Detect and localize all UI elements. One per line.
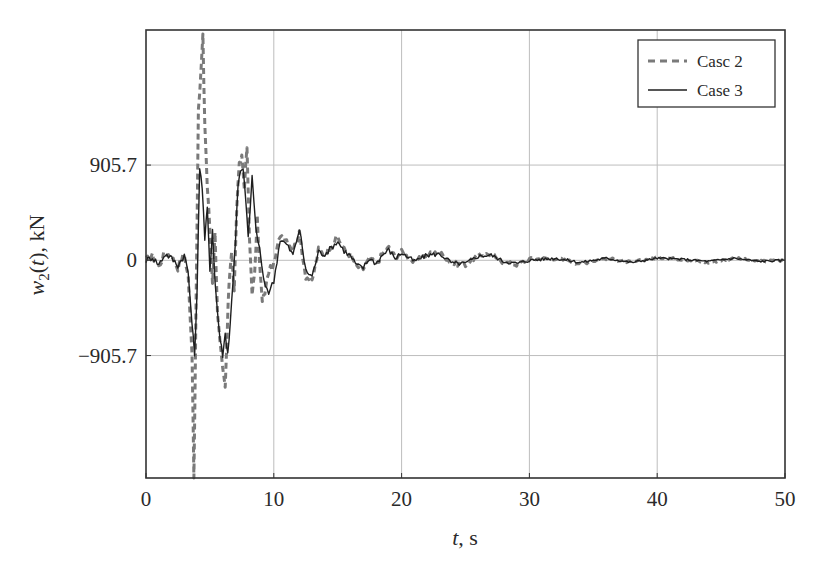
x-tick-label: 0	[141, 487, 152, 511]
y-tick-label: 0	[127, 248, 138, 272]
y-axis-label: w2(t), kN	[24, 214, 52, 295]
y-tick-label: −905.7	[78, 344, 137, 368]
x-tick-label: 20	[391, 487, 412, 511]
x-tick-label: 30	[519, 487, 540, 511]
chart: 01020304050 −905.70905.7 t, s w2(t), kN …	[0, 0, 838, 571]
y-axis-ticks: −905.70905.7	[78, 153, 151, 367]
x-tick-label: 10	[263, 487, 284, 511]
x-axis-label: t, s	[452, 525, 478, 550]
legend-label-case-3: Case 3	[697, 81, 743, 100]
legend-label-case-2: Casc 2	[697, 52, 743, 71]
x-tick-label: 50	[775, 487, 796, 511]
y-tick-label: 905.7	[90, 153, 137, 177]
x-tick-label: 40	[647, 487, 668, 511]
legend: Casc 2 Case 3	[638, 40, 775, 107]
